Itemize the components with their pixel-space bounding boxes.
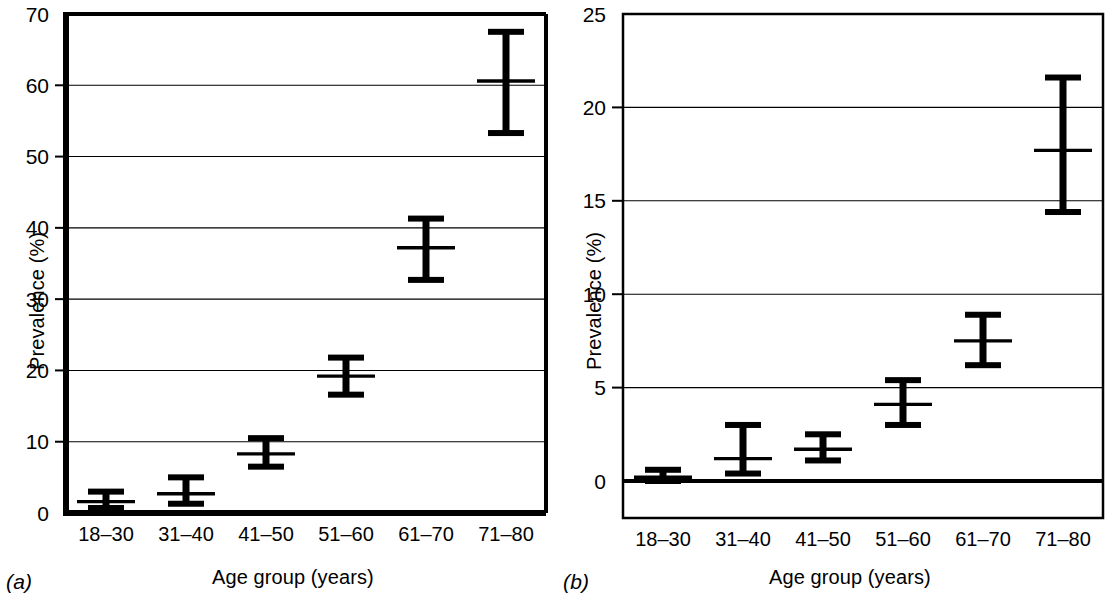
y-tick-label: 20 — [26, 359, 49, 382]
x-tick-label: 18–30 — [635, 528, 691, 550]
x-tick-label: 18–30 — [78, 523, 134, 545]
y-tick-label: 70 — [26, 3, 49, 26]
x-tick-label: 61–70 — [398, 523, 454, 545]
x-tick-label: 41–50 — [238, 523, 294, 545]
y-tick-label: 0 — [37, 502, 49, 525]
y-tick-label: 10 — [583, 283, 606, 306]
x-tick-label: 51–60 — [875, 528, 931, 550]
y-tick-label: 5 — [594, 376, 606, 399]
y-tick-label: 50 — [26, 145, 49, 168]
panel-b-plot: 051015202518–3031–4041–5051–6061–7071–80 — [557, 0, 1114, 602]
panel-a: (a) Prevalence (%) Age group (years) 010… — [0, 0, 557, 602]
y-tick-label: 25 — [583, 3, 606, 26]
x-tick-label: 71–80 — [1035, 528, 1091, 550]
x-tick-label: 51–60 — [318, 523, 374, 545]
panel-a-plot: 01020304050607018–3031–4041–5051–6061–70… — [0, 0, 557, 602]
y-tick-label: 60 — [26, 74, 49, 97]
y-tick-label: 30 — [26, 288, 49, 311]
x-tick-label: 61–70 — [955, 528, 1011, 550]
y-tick-label: 20 — [583, 96, 606, 119]
x-tick-label: 41–50 — [795, 528, 851, 550]
y-tick-label: 10 — [26, 430, 49, 453]
x-tick-label: 31–40 — [715, 528, 771, 550]
panel-b: (b) Prevalence (%) Age group (years) 051… — [557, 0, 1114, 602]
x-tick-label: 71–80 — [478, 523, 534, 545]
y-tick-label: 15 — [583, 189, 606, 212]
y-tick-label: 40 — [26, 216, 49, 239]
x-tick-label: 31–40 — [158, 523, 214, 545]
y-tick-label: 0 — [594, 470, 606, 493]
figure-two-panel-prevalence-by-age: (a) Prevalence (%) Age group (years) 010… — [0, 0, 1114, 602]
